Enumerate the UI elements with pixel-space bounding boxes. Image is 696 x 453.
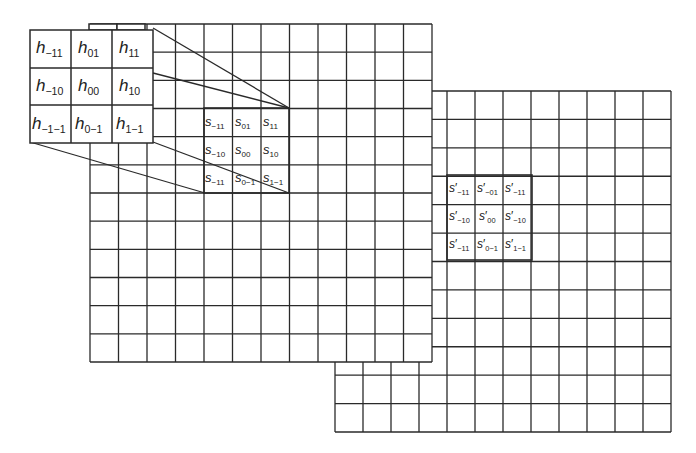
output-cell: s′00: [479, 209, 496, 225]
input-cell: s−11: [205, 114, 225, 131]
output-cell: s′−11: [505, 181, 525, 197]
kernel-cell: h−10: [36, 76, 63, 97]
kernel-cell: h10: [119, 76, 140, 97]
convolution-diagram: [0, 0, 696, 453]
input-cell: s01: [235, 114, 250, 131]
kernel-cell: h00: [78, 76, 99, 97]
output-cell: s′1−1: [505, 237, 526, 253]
output-cell: s′−11: [449, 181, 469, 197]
output-cell: s′0−1: [477, 237, 498, 253]
input-cell: s0−1: [235, 170, 255, 187]
kernel-cell: h−11: [36, 38, 63, 59]
input-cell: s1−1: [263, 170, 283, 187]
kernel-cell: h11: [119, 38, 139, 59]
input-cell: s11: [263, 114, 278, 131]
input-cell: s10: [263, 142, 278, 159]
output-cell: s′−11: [449, 237, 469, 253]
output-cell: s′−01: [477, 181, 498, 197]
input-cell: s−11: [205, 170, 225, 187]
kernel-cell: h1−1: [116, 114, 143, 135]
kernel-cell: h0−1: [75, 114, 102, 135]
output-cell: s′−10: [505, 209, 526, 225]
input-cell: s00: [235, 142, 250, 159]
kernel-cell: h01: [78, 38, 99, 59]
kernel-cell: h−1−1: [32, 114, 65, 135]
output-cell: s′−10: [449, 209, 470, 225]
input-cell: s−10: [205, 142, 225, 159]
